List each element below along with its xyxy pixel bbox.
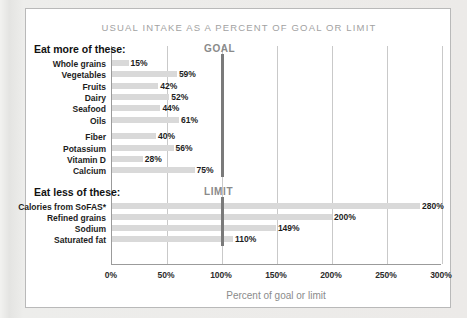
category-label: Whole grains xyxy=(53,60,106,69)
x-tick-label: 50% xyxy=(157,270,174,280)
category-label: Fruits xyxy=(82,83,106,92)
gridline-300 xyxy=(442,46,443,264)
bar xyxy=(112,105,160,111)
x-tick-label: 300% xyxy=(430,270,452,280)
x-axis-title: Percent of goal or limit xyxy=(111,290,441,301)
bar-value-label: 44% xyxy=(162,104,179,113)
bar xyxy=(112,117,179,123)
x-tick-label: 250% xyxy=(375,270,397,280)
bar-value-label: 61% xyxy=(181,116,198,125)
chart-panel: USUAL INTAKE AS A PERCENT OF GOAL OR LIM… xyxy=(25,8,451,308)
bar xyxy=(112,225,276,231)
section-heading: Eat more of these: xyxy=(34,43,126,55)
category-label: Fiber xyxy=(85,133,106,142)
category-label: Calcium xyxy=(73,167,106,176)
x-tick-label: 200% xyxy=(320,270,342,280)
bar-value-label: 149% xyxy=(278,224,300,233)
category-label: Refined grains xyxy=(47,214,106,223)
category-label: Sodium xyxy=(75,225,106,234)
gridline-50 xyxy=(167,46,168,264)
gridline-200 xyxy=(332,46,333,264)
bar-value-label: 28% xyxy=(145,155,162,164)
section-heading: Eat less of these: xyxy=(34,186,120,198)
x-tick-label: 150% xyxy=(265,270,287,280)
bar xyxy=(112,83,158,89)
category-label: Saturated fat xyxy=(54,236,106,245)
category-label: Seafood xyxy=(72,105,106,114)
bar xyxy=(112,167,195,173)
reference-marker-goal: GOAL xyxy=(204,43,235,54)
category-label: Potassium xyxy=(63,145,106,154)
bar xyxy=(112,156,143,162)
gridline-250 xyxy=(387,46,388,264)
bar xyxy=(112,133,156,139)
category-label: Calories from SoFAS* xyxy=(18,203,106,212)
x-tick-label: 0% xyxy=(105,270,117,280)
category-label: Dairy xyxy=(85,94,106,103)
bar xyxy=(112,60,129,66)
bar-value-label: 75% xyxy=(197,166,214,175)
bar-value-label: 280% xyxy=(422,202,444,211)
reference-marker-limit: LIMIT xyxy=(204,186,233,197)
bar xyxy=(112,145,174,151)
bar-value-label: 56% xyxy=(176,144,193,153)
bar xyxy=(112,203,420,209)
bar xyxy=(112,71,177,77)
reference-line-limit xyxy=(221,197,224,246)
category-label: Vitamin D xyxy=(67,156,106,165)
reference-line-goal xyxy=(221,54,224,177)
x-tick-label: 100% xyxy=(210,270,232,280)
bar-value-label: 110% xyxy=(235,235,256,244)
category-label: Vegetables xyxy=(62,71,106,80)
bar-value-label: 59% xyxy=(179,70,196,79)
bar-value-label: 15% xyxy=(131,59,148,68)
category-label: Oils xyxy=(90,117,106,126)
bar xyxy=(112,236,233,242)
bar-value-label: 40% xyxy=(158,132,175,141)
bar-value-label: 52% xyxy=(171,93,188,102)
bar xyxy=(112,94,169,100)
bar-value-label: 42% xyxy=(160,82,177,91)
bar-value-label: 200% xyxy=(334,213,356,222)
